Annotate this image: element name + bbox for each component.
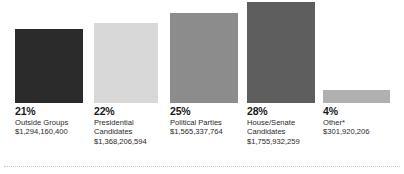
bar-amount-label: $301,920,206 — [323, 127, 369, 136]
bar-category-label-line1: Other* — [323, 118, 369, 127]
bar-amount-label: $1,368,206,594 — [94, 137, 147, 146]
chart-labels: 21% Outside Groups $1,294,160,400 22% Pr… — [0, 105, 404, 165]
bar-amount-label: $1,755,932,259 — [247, 137, 300, 146]
bar-category-label-line2: Candidates — [94, 127, 147, 136]
bar-amount-label: $1,294,160,400 — [15, 127, 68, 136]
label-group-house-senate-candidates: 28% House/Senate Candidates $1,755,932,2… — [247, 105, 300, 146]
bar-amount-label: $1,565,337,764 — [170, 127, 223, 136]
bar-percent-label: 22% — [94, 105, 147, 117]
bar-category-label-line1: House/Senate — [247, 118, 300, 127]
bar-percent-label: 21% — [15, 105, 68, 117]
bar-category-label-line1: Political Parties — [170, 118, 223, 127]
bar-presidential-candidates — [94, 23, 158, 103]
bar-chart: 21% Outside Groups $1,294,160,400 22% Pr… — [0, 0, 404, 174]
bar-political-parties — [170, 13, 238, 103]
label-group-other: 4% Other* $301,920,206 — [323, 105, 369, 137]
bar-percent-label: 28% — [247, 105, 300, 117]
label-group-political-parties: 25% Political Parties $1,565,337,764 — [170, 105, 223, 137]
bar-category-label-line1: Presidential — [94, 118, 147, 127]
bar-category-label-line2: Candidates — [247, 127, 300, 136]
label-group-outside-groups: 21% Outside Groups $1,294,160,400 — [15, 105, 68, 137]
footer-divider — [4, 166, 400, 167]
bar-outside-groups — [15, 29, 83, 103]
bar-house-senate-candidates — [247, 2, 315, 103]
bar-category-label-line1: Outside Groups — [15, 118, 68, 127]
bar-percent-label: 25% — [170, 105, 223, 117]
bar-other — [323, 90, 390, 103]
label-group-presidential-candidates: 22% Presidential Candidates $1,368,206,5… — [94, 105, 147, 146]
chart-plot-area — [0, 0, 404, 105]
bar-percent-label: 4% — [323, 105, 369, 117]
